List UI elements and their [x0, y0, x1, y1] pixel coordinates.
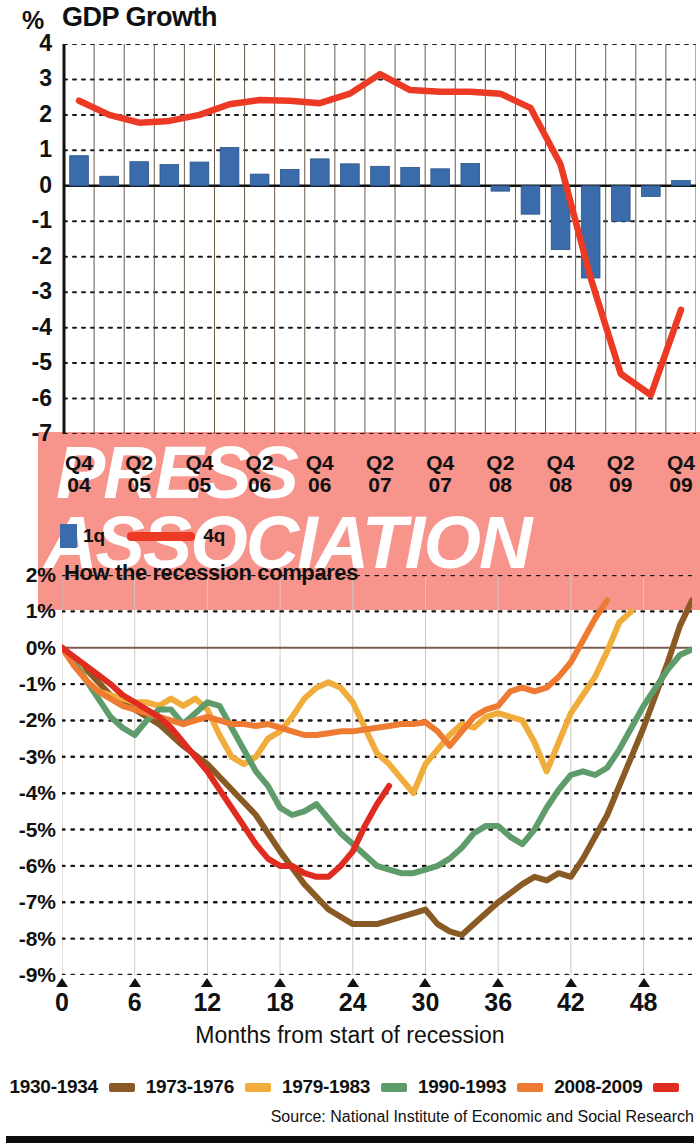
- year-label: 07: [357, 473, 403, 496]
- bottom-chart-y-tick: -4%: [0, 782, 56, 803]
- quarter-label: Q4: [176, 452, 222, 473]
- year-label: 08: [477, 473, 523, 496]
- legend-label: 1973-1976: [146, 1076, 234, 1098]
- year-label: 06: [297, 473, 343, 496]
- legend-item: 2008-2009: [554, 1076, 690, 1098]
- bottom-chart-x-tick: 42: [549, 990, 593, 1015]
- x-tick-arrow-icon: [347, 978, 359, 987]
- gdp-growth-plot: [60, 44, 696, 434]
- recession-comparison-plot: [62, 575, 692, 975]
- bottom-chart-y-tick: -9%: [0, 964, 56, 985]
- quarter-label: Q2: [598, 452, 644, 473]
- year-label: 08: [538, 473, 584, 496]
- x-tick-arrow-icon: [638, 978, 650, 987]
- top-chart-x-tick: Q409: [658, 452, 700, 496]
- bottom-chart-x-tick: 36: [476, 990, 520, 1015]
- top-chart-y-tick: -2: [0, 245, 52, 268]
- legend-item: 1973-1976: [146, 1076, 282, 1098]
- top-chart-x-tick: Q205: [116, 452, 162, 496]
- legend-item: 1990-1993: [418, 1076, 554, 1098]
- legend-item: 1979-1983: [282, 1076, 418, 1098]
- legend-label: 2008-2009: [554, 1076, 642, 1098]
- bottom-chart-title: How the recession compares: [64, 560, 358, 586]
- year-label: 07: [417, 473, 463, 496]
- year-label: 04: [56, 473, 102, 496]
- bottom-chart-x-tick: 12: [185, 990, 229, 1015]
- top-chart-x-tick: Q207: [357, 452, 403, 496]
- top-chart-x-tick: Q406: [297, 452, 343, 496]
- x-tick-arrow-icon: [129, 978, 141, 987]
- year-label: 05: [176, 473, 222, 496]
- bottom-chart-y-tick: -8%: [0, 928, 56, 949]
- bottom-chart-x-tick: 0: [40, 990, 84, 1015]
- bottom-chart-x-tick: 24: [331, 990, 375, 1015]
- top-chart-y-tick: -4: [0, 316, 52, 339]
- year-label: 09: [658, 473, 700, 496]
- legend-label-1q: 1q: [83, 525, 105, 547]
- legend-label: 1990-1993: [418, 1076, 506, 1098]
- top-chart-x-tick: Q405: [176, 452, 222, 496]
- bottom-chart-y-tick: -7%: [0, 891, 56, 912]
- infographic-root: % GDP Growth 43210-1-2-3-4-5-6-7 PRESS A…: [0, 0, 700, 1148]
- top-chart-title: GDP Growth: [62, 2, 217, 33]
- x-tick-arrow-icon: [419, 978, 431, 987]
- quarter-label: Q4: [538, 452, 584, 473]
- legend-label-4q: 4q: [203, 525, 225, 547]
- legend-swatch: [381, 1083, 407, 1092]
- bottom-chart-y-tick: -5%: [0, 819, 56, 840]
- bottom-chart-y-tick: 0%: [0, 637, 56, 658]
- quarter-label: Q4: [297, 452, 343, 473]
- bottom-chart-x-axis-title: Months from start of recession: [0, 1022, 700, 1049]
- bottom-chart-y-tick: -6%: [0, 855, 56, 876]
- legend-item: 1930-1934: [10, 1076, 146, 1098]
- top-chart-y-tick: -3: [0, 280, 52, 303]
- legend-swatch: [653, 1083, 679, 1092]
- quarter-label: Q2: [357, 452, 403, 473]
- gdp-growth-chart: [60, 44, 696, 434]
- footer-rule: [6, 1136, 694, 1143]
- bottom-chart-legend: 1930-19341973-19761979-19831990-19932008…: [0, 1076, 700, 1098]
- top-chart-y-tick: 3: [0, 67, 52, 90]
- top-chart-x-tick: Q408: [538, 452, 584, 496]
- legend-swatch-4q: [127, 532, 195, 541]
- quarter-label: Q2: [116, 452, 162, 473]
- top-chart-legend: 1q 4q: [60, 524, 225, 548]
- x-tick-arrow-icon: [56, 978, 68, 987]
- bottom-chart-x-tick: 48: [622, 990, 666, 1015]
- legend-swatch: [245, 1083, 271, 1092]
- top-chart-y-tick: 0: [0, 174, 52, 197]
- bottom-chart-y-tick: -1%: [0, 673, 56, 694]
- top-chart-y-tick: -7: [0, 422, 52, 445]
- x-tick-arrow-icon: [201, 978, 213, 987]
- top-chart-y-tick: -1: [0, 209, 52, 232]
- legend-label: 1979-1983: [282, 1076, 370, 1098]
- x-tick-arrow-icon: [565, 978, 577, 987]
- legend-label: 1930-1934: [10, 1076, 98, 1098]
- top-chart-x-tick: Q206: [237, 452, 283, 496]
- bottom-chart-x-tick: 18: [258, 990, 302, 1015]
- year-label: 06: [237, 473, 283, 496]
- recession-comparison-chart: [62, 575, 692, 975]
- top-chart-y-tick: -6: [0, 387, 52, 410]
- top-chart-x-tick: Q407: [417, 452, 463, 496]
- quarter-label: Q2: [477, 452, 523, 473]
- top-chart-y-tick: 1: [0, 138, 52, 161]
- year-label: 05: [116, 473, 162, 496]
- legend-swatch-1q: [60, 524, 77, 548]
- legend-swatch: [517, 1083, 543, 1092]
- x-tick-arrow-icon: [274, 978, 286, 987]
- top-chart-x-tick: Q404: [56, 452, 102, 496]
- quarter-label: Q4: [658, 452, 700, 473]
- top-chart-y-tick: 2: [0, 103, 52, 126]
- legend-swatch: [109, 1083, 135, 1092]
- quarter-label: Q4: [56, 452, 102, 473]
- source-note: Source: National Institute of Economic a…: [271, 1108, 694, 1126]
- bottom-chart-y-tick: 2%: [0, 564, 56, 585]
- bottom-chart-y-tick: -2%: [0, 709, 56, 730]
- bottom-chart-x-tick: 6: [113, 990, 157, 1015]
- top-chart-x-tick: Q209: [598, 452, 644, 496]
- x-tick-arrow-icon: [492, 978, 504, 987]
- top-chart-y-tick: -5: [0, 351, 52, 374]
- top-chart-x-tick: Q208: [477, 452, 523, 496]
- bottom-chart-y-tick: -3%: [0, 746, 56, 767]
